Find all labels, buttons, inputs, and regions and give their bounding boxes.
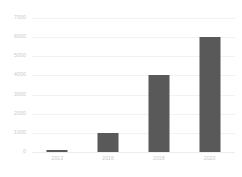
bar-slot <box>134 18 185 152</box>
bar[interactable] <box>148 75 169 152</box>
bar[interactable] <box>47 150 68 152</box>
y-axis-tick-label: 2000 <box>14 111 26 116</box>
y-axis: 01000200030004000500060007000 <box>0 18 30 152</box>
bar-slot <box>83 18 134 152</box>
bar[interactable] <box>98 133 119 152</box>
y-axis-tick-label: 7000 <box>14 15 26 20</box>
gridline <box>32 152 235 153</box>
x-axis-tick-label: 2020 <box>204 156 216 161</box>
bar-slot <box>32 18 83 152</box>
bars-layer <box>32 18 235 152</box>
x-axis: 2013201620182020 <box>32 156 235 168</box>
bar-chart: 01000200030004000500060007000 2013201620… <box>0 0 242 177</box>
y-axis-tick-label: 3000 <box>14 92 26 97</box>
x-axis-tick-label: 2013 <box>51 156 63 161</box>
x-axis-tick-label: 2016 <box>102 156 114 161</box>
y-axis-tick-label: 1000 <box>14 130 26 135</box>
y-axis-tick-label: 4000 <box>14 73 26 78</box>
y-axis-tick-label: 6000 <box>14 35 26 40</box>
bar-slot <box>184 18 235 152</box>
x-axis-tick-label: 2018 <box>153 156 165 161</box>
y-axis-tick-label: 0 <box>23 149 26 154</box>
y-axis-tick-label: 5000 <box>14 54 26 59</box>
bar[interactable] <box>199 37 220 152</box>
plot-area <box>32 18 235 152</box>
